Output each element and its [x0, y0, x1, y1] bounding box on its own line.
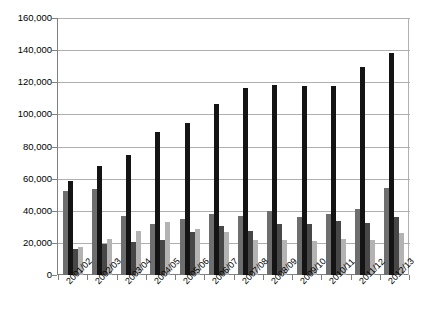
bar-group: [146, 19, 175, 275]
x-axis-tick-labels: 2001/022002/032003/042004/052005/062006/…: [58, 277, 409, 325]
y-axis-tick-label: 40,000: [0, 206, 52, 215]
bar-group: [234, 19, 263, 275]
bar-group: [87, 19, 116, 275]
bar-groups: [58, 19, 409, 275]
y-axis-tick-label: 100,000: [0, 109, 52, 118]
y-axis-tick-label: 140,000: [0, 45, 52, 54]
bar-group: [321, 19, 350, 275]
bar-group: [117, 19, 146, 275]
bar-chart: 160,000140,000120,000100,00080,00060,000…: [0, 0, 423, 325]
bar-group: [380, 19, 409, 275]
bar-group: [263, 19, 292, 275]
y-axis-tick-label: 20,000: [0, 238, 52, 247]
bar-group: [204, 19, 233, 275]
bar-group: [58, 19, 87, 275]
y-axis-tick-label: 120,000: [0, 77, 52, 86]
y-axis-tick-label: 0: [0, 270, 52, 279]
y-axis-tick-mark: [52, 275, 57, 276]
y-axis-tick-label: 60,000: [0, 174, 52, 183]
bar-group: [292, 19, 321, 275]
y-axis-tick-label: 160,000: [0, 13, 52, 22]
bar-group: [351, 19, 380, 275]
y-axis-tick-label: 80,000: [0, 142, 52, 151]
bar-group: [175, 19, 204, 275]
x-axis-tick-mark: [409, 275, 410, 280]
